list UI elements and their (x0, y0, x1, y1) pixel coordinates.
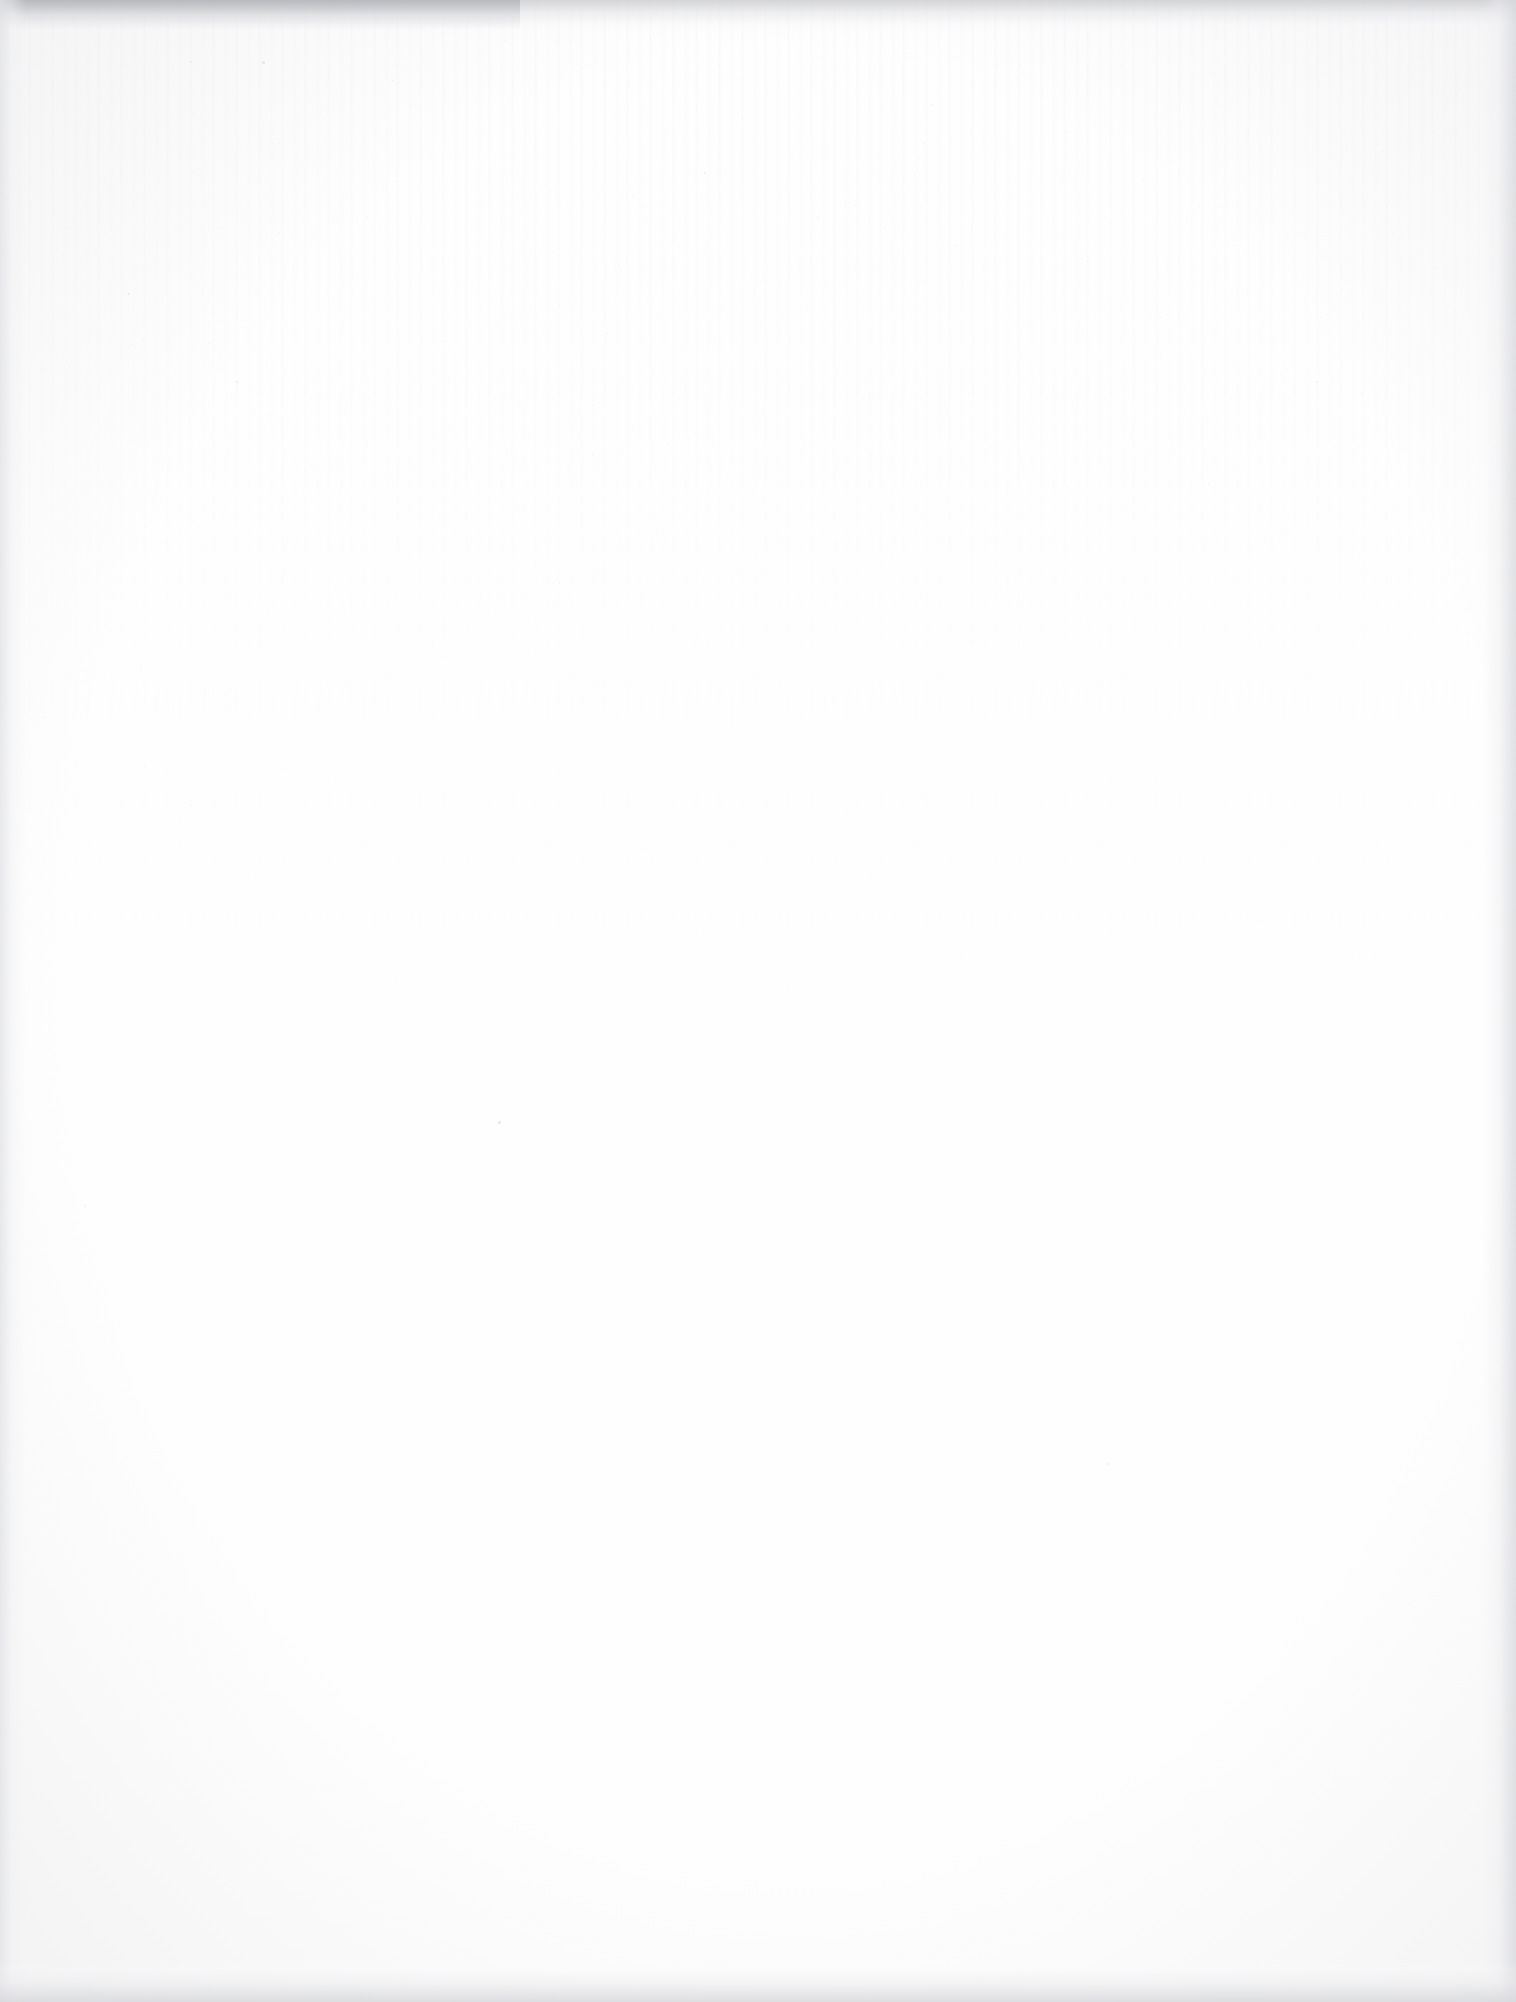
page-vignette (0, 0, 1516, 2002)
top-left-edge-shadow (0, 0, 520, 30)
left-edge-shadow (0, 0, 26, 2002)
bottom-edge-shadow (0, 1960, 1516, 2002)
right-edge-shadow (1482, 0, 1516, 2002)
scanned-page (0, 0, 1516, 2002)
